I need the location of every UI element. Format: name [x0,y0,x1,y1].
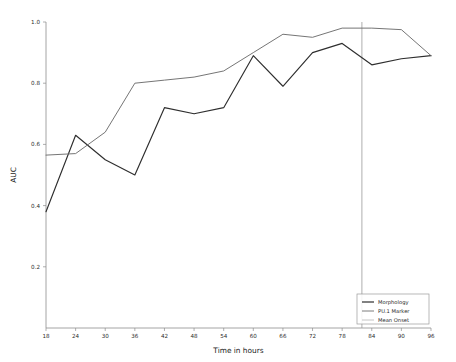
chart-figure: 1824303642485460667278849096 0.20.40.60.… [0,0,456,362]
x-tick-label: 78 [339,333,347,339]
y-tick-label: 0.2 [31,264,40,270]
y-axis-title: AUC [9,167,18,183]
x-axis-title: Time in hours [212,346,263,355]
legend-label: PU.1 Marker [378,308,410,314]
legend-label: Mean Onset [378,317,409,323]
y-tick-label: 1.0 [31,19,40,25]
x-tick-label: 48 [191,333,199,339]
x-tick-label: 42 [161,333,168,339]
x-tick-label: 30 [102,333,110,339]
x-tick-label: 18 [42,333,50,339]
y-tick-label: 0.4 [31,203,40,209]
x-tick-label: 90 [398,333,406,339]
y-tick-label: 0.6 [31,141,40,147]
x-tick-label: 96 [427,333,435,339]
x-tick-label: 54 [220,333,228,339]
x-tick-label: 84 [368,333,376,339]
x-tick-label: 60 [250,333,258,339]
x-tick-label: 36 [131,333,139,339]
x-tick-label: 66 [279,333,287,339]
x-tick-label: 72 [309,333,316,339]
chart-legend[interactable]: MorphologyPU.1 MarkerMean Onset [357,294,429,324]
y-tick-label: 0.8 [31,80,40,86]
auc-vs-time-line-chart: 1824303642485460667278849096 0.20.40.60.… [0,0,456,362]
x-tick-label: 24 [72,333,80,339]
legend-label: Morphology [378,299,409,306]
